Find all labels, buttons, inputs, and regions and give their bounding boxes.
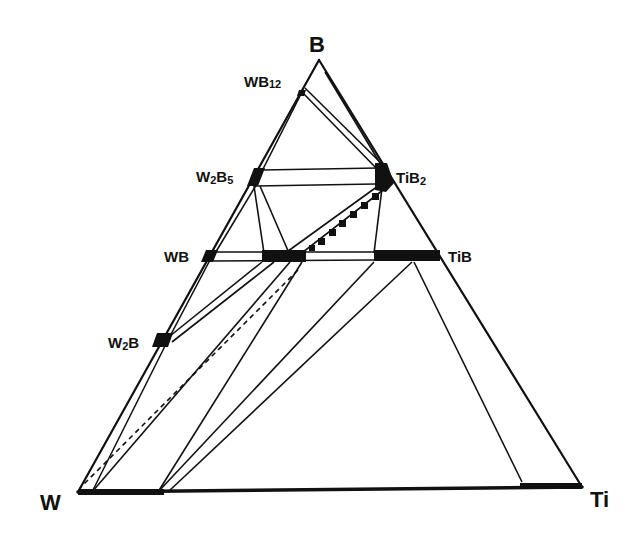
b-tib2-inner-line [325,72,383,168]
label-tib: TiB [448,248,472,265]
label-wb: WB [164,248,189,265]
wb-tib2-diagonal [284,186,383,256]
wb-w2b-tielines [170,262,274,342]
phase-tib2-bar [375,163,394,192]
ternary-phase-diagram: B W Ti WB12 W2B5 TiB2 WB TiB W2B [0,0,644,539]
phase-tib-bar [374,250,440,261]
base-w-bar [78,489,164,495]
left-edge-inner-lines [92,92,302,492]
corner-label-b: B [309,32,325,57]
label-tib2: TiB2 [396,169,426,187]
w2b5-tib2-tielines [256,168,378,186]
label-w2b5: W2B5 [196,168,233,186]
label-wb12: WB12 [244,73,281,90]
phase-regions [78,90,582,495]
tib-base-tielines [158,262,522,492]
corner-label-ti: Ti [590,487,609,512]
corner-label-w: W [40,490,61,515]
phase-w2b-bar [152,333,173,347]
w2b5-wb-tielines [254,186,289,253]
label-w2b: W2B [108,334,139,352]
outer-triangle [78,60,582,492]
base-ti-bar [520,483,582,489]
phase-w2b5-bar [247,168,265,186]
phase-wb-ss-bar [262,250,306,262]
